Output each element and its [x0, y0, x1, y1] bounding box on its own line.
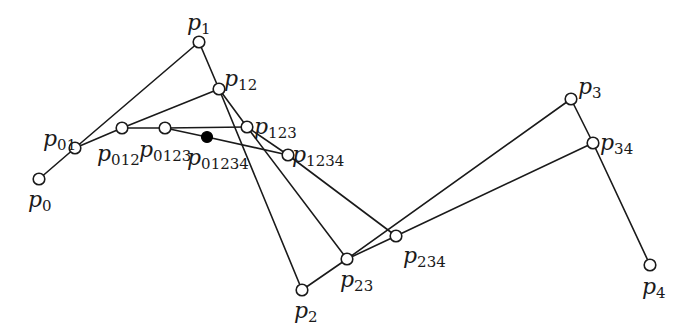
label-p0: p0: [28, 187, 52, 215]
edge-p34-p4: [593, 143, 650, 265]
point-p234-open-circle: [390, 230, 402, 242]
label-p0123: p0123: [139, 137, 191, 165]
edge-p23-p3: [347, 99, 571, 259]
label-p2: p2: [294, 298, 318, 326]
point-p012-open-circle: [116, 122, 128, 134]
point-p123-open-circle: [241, 121, 253, 133]
label-p01234: p01234: [187, 145, 249, 173]
label-p1: p1: [187, 10, 211, 38]
label-p4: p4: [642, 274, 666, 302]
label-p12: p12: [224, 66, 257, 94]
edge-p0123-p123: [165, 127, 247, 128]
label-p234: p234: [403, 243, 446, 271]
point-p0123-open-circle: [159, 122, 171, 134]
point-p3-open-circle: [565, 93, 577, 105]
label-p23: p23: [340, 267, 373, 295]
point-p23-open-circle: [341, 253, 353, 265]
de-casteljau-diagram: p0p1p2p3p4p01p12p23p34p012p123p234p0123p…: [0, 0, 696, 335]
point-p01234-filled-dot: [202, 132, 213, 143]
labels-layer: p0p1p2p3p4p01p12p23p34p012p123p234p0123p…: [28, 10, 666, 326]
label-p012: p012: [97, 141, 140, 169]
label-p3: p3: [578, 74, 602, 102]
label-p01: p01: [43, 126, 76, 154]
edge-p23-p234: [347, 236, 396, 259]
label-p1234: p1234: [292, 142, 344, 170]
edge-p234-p34: [396, 143, 593, 236]
point-p4-open-circle: [644, 259, 656, 271]
point-p0-open-circle: [33, 173, 45, 185]
point-p2-open-circle: [296, 284, 308, 296]
point-p34-open-circle: [587, 137, 599, 149]
edge-p3-p34: [571, 99, 593, 143]
label-p34: p34: [600, 130, 633, 158]
label-p123: p123: [254, 114, 297, 142]
edge-p1-p12: [199, 42, 219, 89]
